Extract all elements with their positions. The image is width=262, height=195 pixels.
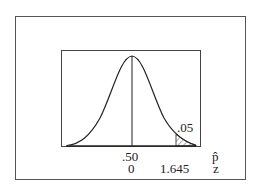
z-symbol: z <box>213 162 219 175</box>
z-center-label: 0 <box>128 162 135 175</box>
z-critical-label: 1.645 <box>160 162 189 175</box>
tail-area-label: .05 <box>177 121 193 134</box>
